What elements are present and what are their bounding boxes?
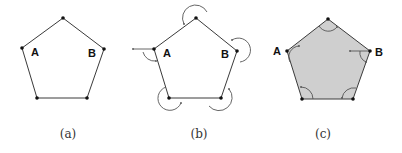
vertex-label-b: B <box>221 48 229 60</box>
vertex-label-a: A <box>273 45 281 57</box>
caption-b: (b) <box>190 127 207 141</box>
panel-a-pentagon: A B <box>20 16 106 100</box>
caption-a: (a) <box>60 127 77 141</box>
panel-c-pentagon: A B <box>273 17 383 101</box>
vertex-label-a: A <box>31 46 39 58</box>
caption-c: (c) <box>315 127 331 141</box>
panel-b-pentagon: A B <box>132 5 250 111</box>
vertex-label-b: B <box>88 47 96 59</box>
vertex-label-b: B <box>375 46 383 58</box>
vertex-label-a: A <box>163 47 171 59</box>
